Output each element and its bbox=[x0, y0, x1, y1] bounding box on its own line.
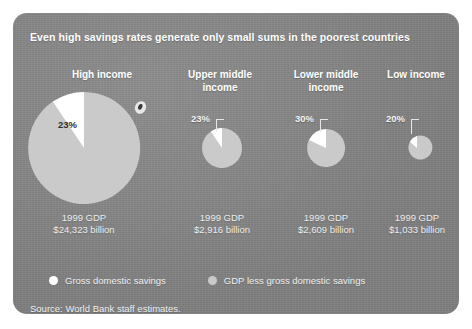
column-header-line: High income bbox=[37, 69, 167, 82]
gdp-year: 1999 GDP bbox=[167, 212, 277, 224]
gdp-label-high-income: 1999 GDP $24,323 billion bbox=[24, 212, 144, 236]
leader-line-lower-middle bbox=[320, 119, 328, 132]
legend: Gross domestic savings GDP less gross do… bbox=[49, 275, 365, 286]
gdp-value: $2,916 billion bbox=[167, 224, 277, 236]
column-header-line: Low income bbox=[373, 69, 459, 82]
chart-title: Even high savings rates generate only sm… bbox=[30, 31, 440, 43]
legend-label: Gross domestic savings bbox=[65, 275, 166, 286]
legend-item-gdp-less-gross-domestic-savings: GDP less gross domestic savings bbox=[208, 275, 365, 286]
leader-line-upper-middle bbox=[216, 119, 224, 132]
column-header-lower-middle-income: Lower middle income bbox=[271, 69, 381, 94]
pie-percent-label-low-income: 20% bbox=[386, 113, 405, 124]
pie-chart-low-income bbox=[13, 13, 459, 314]
pie-percent-label-high-income: 23% bbox=[58, 119, 77, 130]
column-header-high-income: High income bbox=[37, 69, 167, 82]
leader-line-low-income bbox=[411, 119, 419, 134]
gdp-year: 1999 GDP bbox=[364, 212, 459, 224]
pie-percent-label-upper-middle-income: 23% bbox=[191, 113, 210, 124]
source-note: Source: World Bank staff estimates. bbox=[30, 303, 181, 314]
column-header-low-income: Low income bbox=[373, 69, 459, 82]
gdp-label-low-income: 1999 GDP $1,033 billion bbox=[364, 212, 459, 236]
gdp-year: 1999 GDP bbox=[24, 212, 144, 224]
legend-dot-icon bbox=[208, 276, 217, 285]
column-header-line: income bbox=[271, 82, 381, 95]
pie-percent-label-lower-middle-income: 30% bbox=[295, 113, 314, 124]
gdp-value: $24,323 billion bbox=[24, 224, 144, 236]
column-header-line: income bbox=[165, 82, 275, 95]
chart-panel: Even high savings rates generate only sm… bbox=[13, 13, 459, 314]
gdp-value: $1,033 billion bbox=[364, 224, 459, 236]
legend-dot-icon bbox=[49, 276, 58, 285]
gdp-label-upper-middle-income: 1999 GDP $2,916 billion bbox=[167, 212, 277, 236]
column-header-line: Upper middle bbox=[165, 69, 275, 82]
legend-item-gross-domestic-savings: Gross domestic savings bbox=[49, 275, 166, 286]
column-header-line: Lower middle bbox=[271, 69, 381, 82]
column-header-upper-middle-income: Upper middle income bbox=[165, 69, 275, 94]
figure-container: Even high savings rates generate only sm… bbox=[0, 0, 472, 329]
legend-label: GDP less gross domestic savings bbox=[224, 275, 365, 286]
